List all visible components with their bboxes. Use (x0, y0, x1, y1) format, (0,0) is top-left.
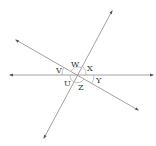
angle-label-u: U (64, 79, 71, 88)
angle-label-w: W (71, 60, 80, 69)
angle-label-v: V (55, 66, 62, 75)
angle-arc-v (62, 67, 64, 75)
angle-arc-y (92, 75, 94, 83)
angle-label-y: Y (95, 76, 102, 85)
ascending-line (44, 11, 112, 138)
arrowhead-top-right-icon (109, 10, 112, 14)
arrowhead-top-left-icon (15, 40, 19, 43)
angle-diagram: V W X Y U Z (0, 0, 156, 146)
arrowhead-left-icon (9, 74, 13, 77)
angle-label-z: Z (78, 83, 84, 92)
angle-label-x: X (87, 64, 93, 73)
arrowhead-right-icon (150, 74, 154, 77)
arrowhead-bottom-right-icon (135, 107, 139, 110)
angle-arc-x (83, 67, 86, 75)
arrowhead-bottom-left-icon (44, 135, 47, 139)
